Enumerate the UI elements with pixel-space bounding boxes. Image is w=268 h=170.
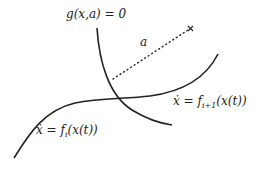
diagram-canvas <box>0 0 268 170</box>
point-marker-icon <box>188 26 193 31</box>
mode-next-label: ẋ = fi+1(x(t)) <box>173 95 247 110</box>
distance-line <box>113 30 188 79</box>
constraint-label: g(x,a) = 0 <box>66 8 126 20</box>
distance-label: a <box>140 36 147 48</box>
mode-current-label: ẋ = fi(x(t)) <box>36 124 98 139</box>
guard-curve <box>97 28 172 125</box>
